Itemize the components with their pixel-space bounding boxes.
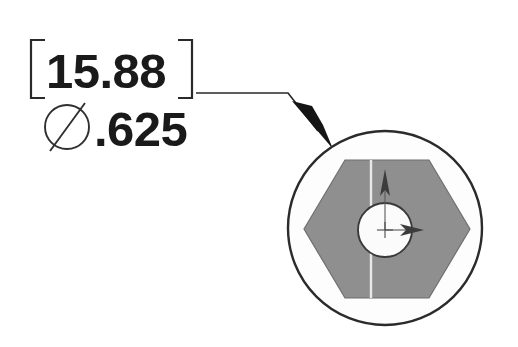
engineering-drawing-canvas: 15.88 .625 xyxy=(0,0,518,347)
drawing-sheet: 15.88 .625 xyxy=(0,0,518,347)
basic-dimension-value: 15.88 xyxy=(46,44,166,98)
end-view-group xyxy=(288,131,482,325)
diameter-dimension-value: .625 xyxy=(94,102,187,156)
